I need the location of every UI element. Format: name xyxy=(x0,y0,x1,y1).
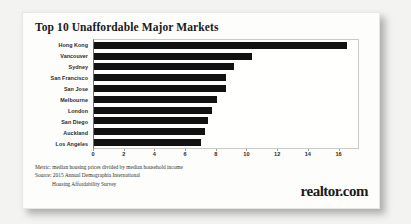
bar-san-diego xyxy=(94,117,208,124)
bar-hong-kong xyxy=(94,42,347,49)
bar-san-jose xyxy=(94,85,226,92)
axis-tick-label: 10 xyxy=(243,151,249,157)
category-label-melbourne: Melbourne xyxy=(35,94,91,105)
bar-row xyxy=(94,137,358,148)
axis-tick-label: 0 xyxy=(91,151,94,157)
chart-plot-area: Hong Kong Vancouver Sydney San Francisco… xyxy=(35,39,367,161)
axis-tick-label: 4 xyxy=(153,151,156,157)
page-title: Top 10 Unaffordable Major Markets xyxy=(35,21,218,33)
bar-row xyxy=(94,72,358,83)
bar-row xyxy=(94,62,358,73)
bar-row xyxy=(94,51,358,62)
category-axis: Hong Kong Vancouver Sydney San Francisco… xyxy=(35,39,91,149)
category-label-vancouver: Vancouver xyxy=(35,50,91,61)
bar-row xyxy=(94,116,358,127)
footnote-source-continued: Housing Affordability Survey xyxy=(35,180,183,188)
category-label-san-jose: San Jose xyxy=(35,83,91,94)
bar-row xyxy=(94,83,358,94)
category-label-london: London xyxy=(35,105,91,116)
bar-sydney xyxy=(94,63,234,70)
category-label-san-francisco: San Francisco xyxy=(35,72,91,83)
axis-tick-label: 8 xyxy=(214,151,217,157)
axis-tick-label: 14 xyxy=(305,151,311,157)
bar-row xyxy=(94,94,358,105)
axis-tick-label: 12 xyxy=(274,151,280,157)
category-label-sydney: Sydney xyxy=(35,61,91,72)
realtor-logo: realtor.com xyxy=(301,183,368,200)
chart-card: Top 10 Unaffordable Major Markets Hong K… xyxy=(22,12,380,209)
bar-san-francisco xyxy=(94,74,226,81)
plot-frame xyxy=(93,39,359,149)
bar-row xyxy=(94,126,358,137)
bar-auckland xyxy=(94,128,205,135)
bar-series xyxy=(94,40,358,148)
footnote-metric: Metric: median housing prices divided by… xyxy=(35,163,183,171)
category-label-los-angeles: Los Angeles xyxy=(35,138,91,149)
bar-melbourne xyxy=(94,96,217,103)
footnote-source: Source: 2015 Annual Demographia Internat… xyxy=(35,171,183,179)
chart-footnotes: Metric: median housing prices divided by… xyxy=(35,163,183,188)
bar-vancouver xyxy=(94,53,252,60)
bar-london xyxy=(94,107,212,114)
bar-los-angeles xyxy=(94,139,201,146)
bar-row xyxy=(94,40,358,51)
bar-row xyxy=(94,105,358,116)
category-label-san-diego: San Diego xyxy=(35,116,91,127)
axis-tick-label: 2 xyxy=(122,151,125,157)
category-label-auckland: Auckland xyxy=(35,127,91,138)
axis-tick-label: 16 xyxy=(335,151,341,157)
category-label-hong-kong: Hong Kong xyxy=(35,39,91,50)
axis-tick-label: 6 xyxy=(184,151,187,157)
value-axis: 0246810121416 xyxy=(93,149,359,161)
